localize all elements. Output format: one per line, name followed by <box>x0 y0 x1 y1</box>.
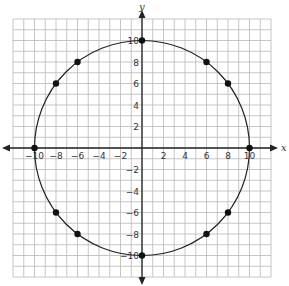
y-tick-label: 8 <box>133 58 139 68</box>
y-tick-label: 6 <box>133 79 139 89</box>
data-point <box>225 80 231 86</box>
x-arrow-right-icon <box>270 145 278 152</box>
x-tick-label: 8 <box>225 151 231 161</box>
data-point <box>203 59 209 65</box>
data-point <box>139 37 145 43</box>
y-tick-label: −2 <box>126 165 139 175</box>
x-tick-label: 4 <box>182 151 188 161</box>
y-tick-label: −6 <box>126 208 140 218</box>
data-point <box>225 209 231 215</box>
x-tick-label: −6 <box>71 151 85 161</box>
data-point <box>246 145 252 151</box>
y-tick-label: −10 <box>120 251 139 261</box>
data-point <box>203 231 209 237</box>
data-point <box>74 59 80 65</box>
data-point <box>74 231 80 237</box>
y-tick-label: −4 <box>126 187 140 197</box>
x-tick-label: 2 <box>161 151 167 161</box>
x-tick-label: −4 <box>92 151 106 161</box>
y-arrow-down-icon <box>139 277 146 285</box>
y-tick-label: 2 <box>133 122 139 132</box>
data-point <box>53 80 59 86</box>
x-tick-label: −8 <box>49 151 63 161</box>
coordinate-plane: −10−8−6−4−2246810−10−8−6−4−2246810 x y <box>0 0 289 286</box>
x-arrow-left-icon <box>2 145 10 152</box>
y-tick-label: 4 <box>133 101 139 111</box>
x-axis-label: x <box>281 142 287 153</box>
y-axis-label: y <box>138 1 145 12</box>
x-tick-label: −2 <box>114 151 127 161</box>
data-point <box>31 145 37 151</box>
data-point <box>53 209 59 215</box>
x-tick-label: 6 <box>204 151 210 161</box>
data-point <box>139 252 145 258</box>
y-tick-label: −8 <box>126 230 140 240</box>
